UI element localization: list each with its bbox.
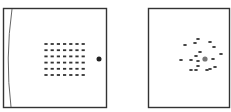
particle — [219, 53, 222, 55]
particle — [69, 68, 72, 70]
particle — [44, 74, 47, 76]
particle — [198, 51, 201, 53]
particle — [51, 74, 54, 76]
scattered-particles — [179, 38, 222, 71]
right-frame — [149, 9, 230, 108]
particle — [57, 49, 60, 51]
particle — [205, 69, 208, 71]
curved-boundary — [8, 9, 12, 107]
large-dot — [97, 57, 102, 62]
particle — [208, 68, 211, 70]
particle — [75, 49, 78, 51]
particle — [57, 68, 60, 70]
ordered-panel — [4, 9, 107, 108]
particle — [213, 66, 216, 68]
particle — [44, 62, 47, 64]
particle — [63, 43, 66, 45]
particle — [196, 65, 199, 67]
particle — [212, 46, 215, 48]
particle — [189, 69, 192, 71]
particle — [75, 43, 78, 45]
particle — [51, 56, 54, 58]
particle — [57, 62, 60, 64]
particle — [63, 62, 66, 64]
particle — [63, 68, 66, 70]
particle — [82, 68, 85, 70]
particle — [44, 49, 47, 51]
particle — [44, 56, 47, 58]
diagram-canvas — [0, 0, 231, 112]
particle — [51, 68, 54, 70]
particle — [75, 62, 78, 64]
particle — [51, 62, 54, 64]
particle — [82, 62, 85, 64]
particle — [69, 62, 72, 64]
center-dot — [202, 56, 207, 61]
particle — [196, 60, 199, 62]
particle — [63, 49, 66, 51]
particle — [75, 68, 78, 70]
particle — [82, 43, 85, 45]
particle — [82, 49, 85, 51]
particle — [189, 59, 192, 61]
particle — [69, 56, 72, 58]
particle-grid — [44, 43, 84, 76]
particle — [57, 56, 60, 58]
particle — [193, 42, 196, 44]
particle — [69, 74, 72, 76]
particle — [51, 49, 54, 51]
particle — [51, 43, 54, 45]
particle — [194, 69, 197, 71]
particle — [82, 56, 85, 58]
particle — [75, 56, 78, 58]
particle — [44, 43, 47, 45]
particle — [69, 43, 72, 45]
particle — [63, 56, 66, 58]
particle — [44, 68, 47, 70]
particle — [63, 74, 66, 76]
left-frame — [4, 9, 107, 108]
particle — [57, 74, 60, 76]
particle — [82, 74, 85, 76]
particle — [208, 41, 211, 43]
particle — [75, 74, 78, 76]
particle — [69, 49, 72, 51]
disordered-panel — [149, 9, 230, 108]
particle — [211, 58, 214, 60]
particle — [179, 59, 182, 61]
particle — [183, 44, 186, 46]
particle — [57, 43, 60, 45]
particle — [196, 38, 199, 40]
particle — [194, 55, 197, 57]
